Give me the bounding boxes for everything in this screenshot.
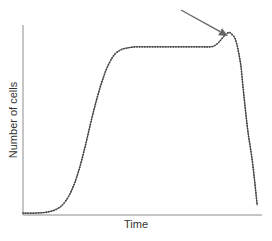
data-point (252, 166, 254, 168)
data-point (154, 46, 156, 48)
data-point (88, 129, 90, 131)
data-point (51, 210, 53, 212)
data-point (88, 131, 90, 133)
data-point (220, 39, 222, 41)
data-point (90, 121, 92, 123)
data-point (254, 179, 256, 181)
data-point (38, 212, 40, 214)
data-point (201, 46, 203, 48)
data-point (69, 193, 71, 195)
data-point (235, 40, 237, 42)
data-point (244, 102, 246, 104)
data-point (242, 89, 244, 91)
data-point (40, 212, 42, 214)
data-point (85, 141, 87, 143)
data-point (22, 212, 24, 214)
data-point (243, 99, 245, 101)
data-point (25, 212, 27, 214)
data-point (78, 169, 80, 171)
data-point (126, 47, 128, 49)
data-point (101, 81, 103, 83)
data-point (245, 110, 247, 112)
data-point (255, 190, 257, 192)
data-point (242, 84, 244, 86)
data-point (121, 48, 123, 50)
data-point (63, 202, 65, 204)
data-point (248, 138, 250, 140)
data-point (86, 139, 88, 141)
data-point (114, 53, 116, 55)
data-point (245, 115, 247, 117)
data-point (85, 144, 87, 146)
data-point (244, 107, 246, 109)
data-point (93, 108, 95, 110)
data-point (241, 76, 243, 78)
data-point (227, 32, 229, 34)
data-point (211, 46, 213, 48)
data-point (237, 48, 239, 50)
data-point (246, 123, 248, 125)
data-point (87, 136, 89, 138)
data-point (237, 50, 239, 52)
data-point (240, 66, 242, 68)
data-point (165, 46, 167, 48)
data-point (159, 46, 161, 48)
data-point (251, 156, 253, 158)
data-point (238, 53, 240, 55)
data-point (241, 73, 243, 75)
data-point (209, 46, 211, 48)
data-point (82, 154, 84, 156)
growth-curve-chart (0, 0, 272, 241)
data-point (104, 73, 106, 75)
data-point (146, 46, 148, 48)
data-point (170, 46, 172, 48)
data-point (97, 93, 99, 95)
data-point (248, 141, 250, 143)
data-point (141, 46, 143, 48)
data-point (180, 46, 182, 48)
data-point (191, 46, 193, 48)
data-point (252, 164, 254, 166)
data-point (131, 46, 133, 48)
data-point (77, 174, 79, 176)
data-point (244, 104, 246, 106)
data-point (256, 202, 258, 204)
data-point (95, 101, 97, 103)
data-points (22, 32, 258, 214)
data-point (250, 151, 252, 153)
data-point (79, 166, 81, 168)
data-point (91, 116, 93, 118)
data-point (221, 37, 223, 39)
data-point (60, 206, 62, 208)
data-point (82, 156, 84, 158)
data-point (128, 47, 130, 49)
data-point (93, 111, 95, 113)
data-point (243, 91, 245, 93)
data-point (252, 169, 254, 171)
data-point (157, 46, 159, 48)
data-point (133, 46, 135, 48)
data-point (246, 125, 248, 127)
data-point (245, 117, 247, 119)
data-point (71, 188, 73, 190)
data-point (80, 161, 82, 163)
data-point (178, 46, 180, 48)
data-point (96, 98, 98, 100)
data-point (250, 148, 252, 150)
data-point (27, 212, 29, 214)
data-point (75, 179, 77, 181)
data-point (183, 46, 185, 48)
data-point (87, 134, 89, 136)
data-point (123, 48, 125, 50)
data-point (98, 91, 100, 93)
data-point (113, 55, 115, 57)
data-point (234, 38, 236, 40)
annotation-arrow (181, 10, 228, 36)
data-point (253, 174, 255, 176)
data-point (238, 55, 240, 57)
data-point (252, 161, 254, 163)
data-point (68, 195, 70, 197)
data-point (118, 50, 120, 52)
data-point (239, 58, 241, 60)
x-axis-label: Time (0, 218, 272, 230)
